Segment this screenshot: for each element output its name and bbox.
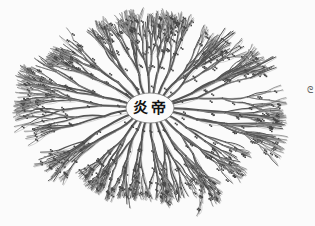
center-label: 炎帝 [128, 98, 174, 118]
tree-diagram: 炎帝 ᘓ [0, 0, 315, 226]
side-mark: ᘓ [305, 86, 315, 95]
